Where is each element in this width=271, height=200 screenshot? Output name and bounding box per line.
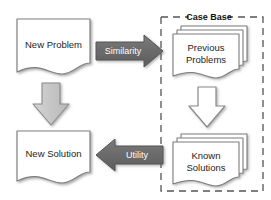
- new-problem-label: New Problem: [25, 39, 82, 50]
- previous-problems-label-line2: Problems: [186, 54, 226, 65]
- arrow-retrieve-down[interactable]: [189, 87, 225, 127]
- previous-problems-label-line1: Previous: [188, 42, 225, 53]
- utility-arrow-label: Utility: [126, 150, 148, 160]
- known-solutions-label-line2: Solutions: [186, 162, 225, 173]
- case-base-label: Case Base: [186, 12, 232, 22]
- known-solutions-label-line1: Known: [191, 150, 220, 161]
- similarity-arrow-label: Similarity: [105, 46, 142, 56]
- new-solution-label: New Solution: [26, 148, 82, 159]
- retrieve-arrow-shape: [189, 87, 225, 127]
- arrow-retain-down[interactable]: [33, 83, 69, 125]
- cbr-cycle-diagram: Case Base New Problem New Solution Previ…: [0, 0, 271, 200]
- retain-arrow-shape: [33, 83, 69, 125]
